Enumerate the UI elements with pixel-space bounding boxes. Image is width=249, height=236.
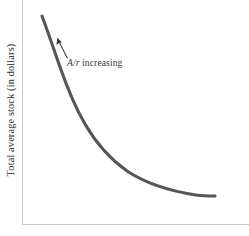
data-series-group (42, 16, 215, 196)
annotation-arrow (56, 38, 67, 59)
axes-group (22, 0, 249, 225)
annotation-symbol: A/r (67, 57, 80, 68)
chart-figure: Total average stock (in dollars) A/r inc… (0, 0, 249, 236)
arrow-head (56, 38, 61, 45)
data-curve-total-average-stock (42, 16, 215, 196)
annotation-word: increasing (82, 57, 122, 68)
plot-area (0, 0, 249, 236)
annotation-label: A/r increasing (67, 57, 123, 68)
arrow-shaft (59, 41, 68, 58)
